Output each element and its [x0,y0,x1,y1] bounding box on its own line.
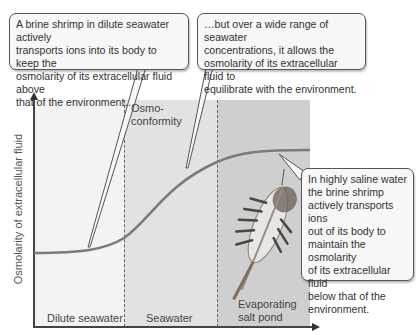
zone-label-seawater: Seawater [146,312,192,325]
callout-osmoconformity: …but over a wide range of seawater conce… [197,13,366,70]
zone-label-dilute: Dilute seawater [47,312,123,325]
callout-saline: In highly saline water the brine shrimp … [301,168,414,281]
zone-label-salt-pond: Evaporating salt pond [238,298,297,324]
callout-dilute: A brine shrimp in dilute seawater active… [9,13,189,70]
osmolarity-curve [34,150,310,253]
